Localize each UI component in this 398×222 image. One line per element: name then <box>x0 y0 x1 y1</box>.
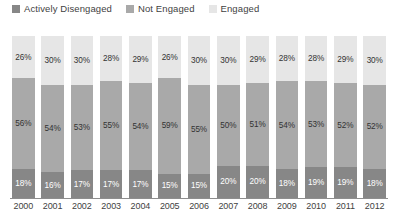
bar-column[interactable]: 28%55%17% <box>100 36 123 198</box>
bar-segment-value-label: 51% <box>250 120 266 129</box>
bar-segment-value-label: 55% <box>191 125 207 134</box>
x-axis-tick-label: 2004 <box>129 201 152 212</box>
bar-segment-engaged[interactable]: 28% <box>100 36 123 81</box>
bar-column[interactable]: 29%52%19% <box>334 36 357 198</box>
x-axis-tick-label: 2006 <box>188 201 211 212</box>
bar-segment-value-label: 17% <box>103 180 119 189</box>
stacked-bar-chart: Actively DisengagedNot EngagedEngaged 26… <box>0 0 398 222</box>
bar-column[interactable]: 28%53%19% <box>305 36 328 198</box>
bar-segment-not-engaged[interactable]: 52% <box>363 85 386 169</box>
legend-swatch-not-engaged <box>126 5 134 13</box>
bar-segment-engaged[interactable]: 28% <box>305 36 328 81</box>
bar-segment-actively-disengaged[interactable]: 17% <box>71 170 94 198</box>
legend-item-label: Engaged <box>221 4 260 14</box>
bar-segment-actively-disengaged[interactable]: 16% <box>41 172 64 198</box>
bar-segment-value-label: 16% <box>45 181 61 190</box>
bar-column[interactable]: 29%54%17% <box>129 36 152 198</box>
bar-segment-engaged[interactable]: 28% <box>276 36 299 81</box>
bar-segment-not-engaged[interactable]: 54% <box>129 83 152 170</box>
bar-segment-value-label: 52% <box>367 122 383 131</box>
bar-segment-value-label: 20% <box>250 177 266 186</box>
bar-segment-value-label: 52% <box>337 121 353 130</box>
bar-segment-not-engaged[interactable]: 50% <box>217 85 240 166</box>
bar-segment-value-label: 17% <box>132 180 148 189</box>
bar-column[interactable]: 30%53%17% <box>71 36 94 198</box>
bar-column[interactable]: 28%54%18% <box>276 36 299 198</box>
x-axis-tick-label: 2000 <box>12 201 35 212</box>
x-axis-tick-label: 2008 <box>246 201 269 212</box>
chart-legend: Actively DisengagedNot EngagedEngaged <box>12 2 259 16</box>
bar-segment-engaged[interactable]: 30% <box>71 36 94 85</box>
plot-area: 26%56%18%30%54%16%30%53%17%28%55%17%29%5… <box>12 36 386 198</box>
bar-segment-not-engaged[interactable]: 59% <box>158 78 181 174</box>
legend-item-label: Actively Disengaged <box>24 4 112 14</box>
bar-segment-actively-disengaged[interactable]: 20% <box>246 166 269 198</box>
legend-item[interactable]: Engaged <box>209 4 260 14</box>
x-axis-tick-label: 2003 <box>100 201 123 212</box>
bar-column[interactable]: 30%50%20% <box>217 36 240 198</box>
bar-segment-engaged[interactable]: 26% <box>158 36 181 78</box>
bar-segment-engaged[interactable]: 29% <box>334 36 357 83</box>
bar-segment-value-label: 50% <box>220 121 236 130</box>
bar-segment-not-engaged[interactable]: 52% <box>334 83 357 167</box>
x-axis-line <box>10 198 388 199</box>
bar-segment-value-label: 54% <box>45 124 61 133</box>
bar-column[interactable]: 30%54%16% <box>41 36 64 198</box>
legend-item[interactable]: Not Engaged <box>126 4 195 14</box>
bar-segment-value-label: 29% <box>250 55 266 64</box>
bar-column[interactable]: 26%56%18% <box>12 36 35 198</box>
bar-segment-value-label: 30% <box>45 56 61 65</box>
bar-segment-actively-disengaged[interactable]: 19% <box>334 167 357 198</box>
bar-segment-actively-disengaged[interactable]: 15% <box>188 174 211 198</box>
bar-segment-actively-disengaged[interactable]: 17% <box>100 170 123 198</box>
bar-segment-not-engaged[interactable]: 54% <box>276 81 299 168</box>
bar-segment-actively-disengaged[interactable]: 20% <box>217 166 240 198</box>
bar-segment-not-engaged[interactable]: 55% <box>100 81 123 170</box>
bar-segment-engaged[interactable]: 30% <box>217 36 240 85</box>
bar-segment-value-label: 56% <box>15 119 31 128</box>
bar-segment-not-engaged[interactable]: 54% <box>41 85 64 172</box>
x-axis-tick-label: 2010 <box>305 201 328 212</box>
bar-segment-not-engaged[interactable]: 56% <box>12 78 35 169</box>
x-axis-tick-label: 2011 <box>334 201 357 212</box>
legend-swatch-engaged <box>209 5 217 13</box>
bar-segment-actively-disengaged[interactable]: 19% <box>305 167 328 198</box>
bar-segment-value-label: 15% <box>191 181 207 190</box>
legend-item[interactable]: Actively Disengaged <box>12 4 112 14</box>
bar-segment-value-label: 17% <box>74 180 90 189</box>
bar-segment-engaged[interactable]: 30% <box>41 36 64 85</box>
bar-segment-actively-disengaged[interactable]: 15% <box>158 174 181 198</box>
bar-column[interactable]: 30%55%15% <box>188 36 211 198</box>
bar-segment-actively-disengaged[interactable]: 18% <box>363 169 386 198</box>
bar-column[interactable]: 30%52%18% <box>363 36 386 198</box>
bar-segment-value-label: 30% <box>191 56 207 65</box>
bar-segment-value-label: 20% <box>220 177 236 186</box>
bar-segment-value-label: 26% <box>15 53 31 62</box>
bar-segment-not-engaged[interactable]: 53% <box>71 85 94 171</box>
bar-segment-value-label: 28% <box>103 54 119 63</box>
bar-segment-engaged[interactable]: 30% <box>188 36 211 85</box>
bar-segment-value-label: 18% <box>15 179 31 188</box>
bar-segment-actively-disengaged[interactable]: 17% <box>129 170 152 198</box>
bar-segment-value-label: 18% <box>279 179 295 188</box>
bar-segment-not-engaged[interactable]: 55% <box>188 85 211 174</box>
bar-segment-value-label: 30% <box>74 56 90 65</box>
bar-segment-engaged[interactable]: 26% <box>12 36 35 78</box>
x-axis-tick-label: 2012 <box>363 201 386 212</box>
bar-segment-actively-disengaged[interactable]: 18% <box>12 169 35 198</box>
bar-segment-not-engaged[interactable]: 53% <box>305 81 328 167</box>
legend-swatch-actively-disengaged <box>12 5 20 13</box>
bar-segment-engaged[interactable]: 30% <box>363 36 386 85</box>
x-axis-tick-label: 2007 <box>217 201 240 212</box>
bar-segment-engaged[interactable]: 29% <box>246 36 269 83</box>
bar-segment-engaged[interactable]: 29% <box>129 36 152 83</box>
bar-segment-value-label: 30% <box>220 56 236 65</box>
bar-segment-not-engaged[interactable]: 51% <box>246 83 269 166</box>
bar-segment-value-label: 26% <box>162 53 178 62</box>
bar-segment-actively-disengaged[interactable]: 18% <box>276 169 299 198</box>
bar-segment-value-label: 59% <box>162 121 178 130</box>
bar-column[interactable]: 26%59%15% <box>158 36 181 198</box>
bar-column[interactable]: 29%51%20% <box>246 36 269 198</box>
bar-segment-value-label: 55% <box>103 121 119 130</box>
bar-segment-value-label: 54% <box>279 121 295 130</box>
